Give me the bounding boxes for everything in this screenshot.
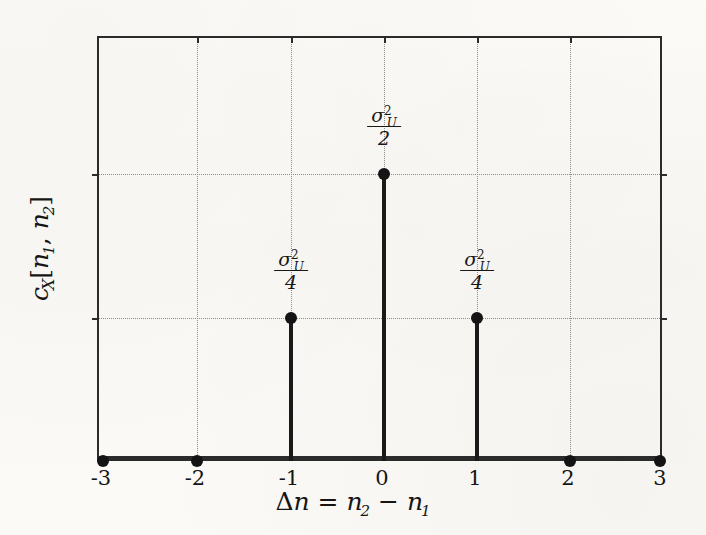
y-tick-right-quarter xyxy=(660,318,667,320)
baseline-axis xyxy=(99,456,660,459)
x-axis-title-n2-subscript: 2 xyxy=(361,502,371,520)
x-axis-title-n1-subscript: 1 xyxy=(421,502,431,520)
stem-x-0 xyxy=(382,174,386,461)
fraction-numerator: σ2U xyxy=(460,250,494,271)
y-axis-title-n1: n xyxy=(26,253,55,269)
fraction-half-center: σ2U 2 xyxy=(367,106,401,148)
y-axis-title-bracket-close: ] xyxy=(26,196,55,206)
fraction-numerator: σ2U xyxy=(274,250,308,271)
value-label-x-1: σ2U 4 xyxy=(460,250,494,292)
y-tick-left-quarter xyxy=(92,318,99,320)
x-axis-title-delta: Δ xyxy=(275,487,293,516)
fraction-denominator: 4 xyxy=(460,271,494,292)
value-label-x-0: σ2U 2 xyxy=(367,106,401,148)
x-axis-title: Δn = n2 − n1 xyxy=(0,487,706,516)
y-axis-title-bracket-open: [ xyxy=(26,269,55,279)
y-axis-title-n2-subscript: 2 xyxy=(41,206,59,216)
y-tick-left-half xyxy=(92,174,99,176)
y-axis-title-n1-subscript: 1 xyxy=(41,245,59,255)
value-label-x-minus1: σ2U 4 xyxy=(274,250,308,292)
fraction-quarter-right: σ2U 4 xyxy=(460,250,494,292)
y-axis-title-n2: n xyxy=(26,213,55,229)
gridline-vertical-x-minus2 xyxy=(197,38,198,459)
plot-area: σ2U 4 σ2U 2 σ2U 4 xyxy=(97,36,662,461)
stem-plot-figure: cX[n1, n2] xyxy=(0,0,706,535)
fraction-numerator: σ2U xyxy=(367,106,401,127)
top-tick-x-1 xyxy=(477,37,479,43)
x-axis-title-minus: − xyxy=(378,487,399,516)
x-axis-title-n: n xyxy=(293,487,309,516)
top-tick-x-2 xyxy=(570,37,572,43)
data-point-x-1 xyxy=(471,312,483,324)
top-tick-x-minus2 xyxy=(197,37,199,43)
x-axis-title-equals: = xyxy=(318,487,339,516)
data-point-x-minus1 xyxy=(285,312,297,324)
fraction-denominator: 4 xyxy=(274,271,308,292)
fraction-denominator: 2 xyxy=(367,127,401,148)
y-axis-title-subscript-x: X xyxy=(40,279,59,290)
sigma-symbol: σ xyxy=(278,248,291,270)
y-axis-title: cX[n1, n2] xyxy=(26,196,55,301)
gridline-horizontal-quarter xyxy=(99,318,660,319)
gridline-vertical-x-2 xyxy=(570,38,571,459)
sigma-symbol: σ xyxy=(371,104,384,126)
y-tick-right-half xyxy=(660,174,667,176)
data-point-x-0 xyxy=(378,168,390,180)
y-axis-title-comma: , xyxy=(26,237,55,245)
y-axis-title-container: cX[n1, n2] xyxy=(18,0,62,497)
stem-x-1 xyxy=(475,318,479,461)
sigma-symbol: σ xyxy=(464,248,477,270)
top-tick-x-0 xyxy=(384,37,386,43)
fraction-quarter-left: σ2U 4 xyxy=(274,250,308,292)
top-tick-x-minus1 xyxy=(291,37,293,43)
stem-x-minus1 xyxy=(289,318,293,461)
